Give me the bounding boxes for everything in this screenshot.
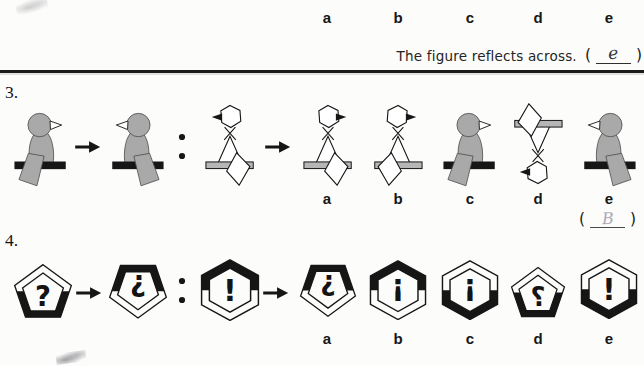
q3-option-b-figure bbox=[373, 103, 423, 186]
svg-text:¿: ¿ bbox=[130, 265, 146, 297]
q4-pair-pentagon-rotated: ¿ bbox=[108, 263, 168, 320]
arrow-icon bbox=[75, 285, 102, 301]
q4-option-letter-a: a bbox=[316, 330, 338, 347]
q3-option-letter-d: d bbox=[527, 190, 549, 207]
arrow-icon bbox=[264, 139, 291, 155]
q4-number: 4. bbox=[5, 230, 18, 251]
q3-option-letter-e: e bbox=[598, 190, 620, 207]
q3-option-letter-c: c bbox=[459, 190, 481, 207]
colon-separator bbox=[177, 276, 187, 306]
divider-line bbox=[0, 70, 644, 73]
q3-option-c-figure bbox=[443, 112, 497, 189]
header-answer-blank[interactable]: ( e ) bbox=[585, 43, 642, 64]
header-option-letter-d: d bbox=[527, 9, 549, 26]
q4-option-a-figure: ¿ bbox=[299, 263, 357, 318]
q3-option-d-figure bbox=[513, 103, 563, 186]
worksheet-page: a b c d e The figure reflects across. ( … bbox=[0, 0, 644, 366]
q4-option-letter-b: b bbox=[387, 330, 409, 347]
colon-separator bbox=[177, 132, 187, 162]
q4-option-d-figure: ? bbox=[510, 266, 566, 319]
q3-option-letter-b: b bbox=[387, 190, 409, 207]
svg-text:?: ? bbox=[35, 280, 51, 312]
instruction-text: The figure reflects across. bbox=[397, 48, 577, 64]
svg-text:!: ! bbox=[223, 273, 237, 308]
arrow-icon bbox=[74, 139, 101, 155]
arrow-icon bbox=[262, 285, 289, 301]
answer-line[interactable]: e bbox=[596, 43, 631, 64]
q3-option-a-figure bbox=[303, 103, 353, 186]
q4-option-c-figure: ¡ bbox=[438, 260, 502, 320]
q4-option-b-figure: ¡ bbox=[366, 260, 430, 320]
q3-option-letter-a: a bbox=[316, 190, 338, 207]
header-option-letter-e: e bbox=[598, 9, 620, 26]
svg-text:!: ! bbox=[602, 273, 615, 307]
q4-option-letter-e: e bbox=[598, 330, 620, 347]
svg-text:¿: ¿ bbox=[320, 265, 335, 296]
q4-option-e-figure: ! bbox=[577, 259, 641, 319]
q4-option-letter-d: d bbox=[527, 330, 549, 347]
close-paren: ) bbox=[636, 46, 642, 64]
svg-text:?: ? bbox=[531, 282, 546, 312]
q4-option-letter-c: c bbox=[459, 330, 481, 347]
q3-number: 3. bbox=[5, 82, 18, 103]
svg-text:¡: ¡ bbox=[463, 269, 476, 303]
header-option-letter-b: b bbox=[387, 9, 409, 26]
handwritten-answer-e: e bbox=[608, 46, 619, 62]
close-paren: ) bbox=[630, 210, 636, 228]
q3-pair-gray-bird-right bbox=[14, 112, 68, 189]
q3-option-e-figure bbox=[582, 112, 636, 189]
q3-pair-outline-bird-left bbox=[205, 103, 255, 186]
q4-pair-hexagon-exclaim: ! bbox=[197, 259, 263, 321]
open-paren: ( bbox=[585, 46, 591, 64]
pencil-smudge-bottom bbox=[55, 350, 86, 365]
q3-answer-blank[interactable]: ( B ) bbox=[579, 207, 636, 228]
q4-pair-pentagon-question: ? bbox=[13, 263, 73, 320]
pencil-smudge-top bbox=[15, 0, 49, 16]
header-option-letter-c: c bbox=[459, 9, 481, 26]
answer-line[interactable]: B bbox=[590, 207, 625, 228]
svg-text:¡: ¡ bbox=[391, 269, 404, 303]
handwritten-answer-b: B bbox=[601, 211, 614, 227]
q3-pair-gray-bird-left bbox=[110, 112, 164, 189]
open-paren: ( bbox=[579, 210, 585, 228]
header-option-letter-a: a bbox=[316, 9, 338, 26]
